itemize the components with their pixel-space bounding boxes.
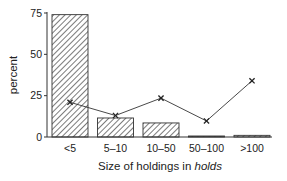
holdings-chart: 0255075 <55–1010–5050–100>100 percent Si…	[0, 0, 287, 181]
x-marker-icon	[204, 118, 209, 123]
y-axis-label: percent	[7, 55, 19, 94]
x-tick-label: <5	[64, 142, 76, 154]
y-tick-label: 50	[30, 48, 42, 60]
x-marker-icon	[113, 113, 118, 118]
x-ticks: <55–1010–5050–100>100	[64, 142, 264, 154]
x-marker-icon	[249, 78, 254, 83]
y-tick-label: 0	[36, 131, 42, 143]
x-tick-label: >100	[240, 142, 264, 154]
y-tick-label: 25	[30, 89, 42, 101]
x-axis-label: Size of holdings in holds	[98, 160, 222, 172]
x-tick-label: 5–10	[104, 142, 128, 154]
bar-series	[52, 15, 270, 137]
trend-line	[70, 81, 252, 121]
bar	[143, 123, 179, 137]
x-marker-icon	[158, 96, 163, 101]
y-ticks: 0255075	[30, 7, 47, 143]
line-series	[67, 78, 254, 123]
x-tick-label: 50–100	[189, 142, 224, 154]
bar	[98, 118, 134, 137]
x-tick-label: 10–50	[146, 142, 175, 154]
bar	[52, 15, 88, 137]
y-tick-label: 75	[30, 7, 42, 19]
